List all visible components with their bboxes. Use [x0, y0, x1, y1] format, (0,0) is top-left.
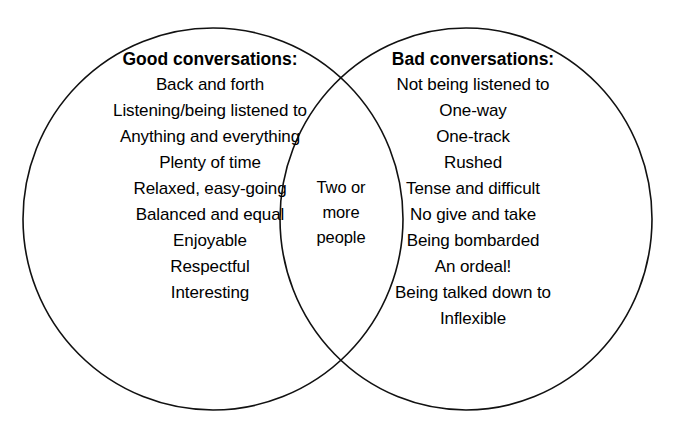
right-set-item-0: Not being listened to [300, 72, 646, 98]
intersection-line-0: Two or [299, 175, 383, 200]
venn-diagram: Good conversations: Back and forth Liste… [0, 0, 679, 432]
right-set-item-9: Inflexible [300, 306, 646, 332]
right-set-item-8: Being talked down to [300, 280, 646, 306]
right-set-item-7: An ordeal! [300, 254, 646, 280]
intersection-line-2: people [299, 225, 383, 250]
right-set-item-2: One-track [300, 124, 646, 150]
right-set-heading: Bad conversations: [300, 46, 646, 72]
intersection-label-group: Two or more people [299, 175, 383, 250]
venn-text-layer: Good conversations: Back and forth Liste… [0, 0, 679, 432]
right-set-item-3: Rushed [300, 150, 646, 176]
right-set-item-1: One-way [300, 98, 646, 124]
intersection-line-1: more [299, 200, 383, 225]
